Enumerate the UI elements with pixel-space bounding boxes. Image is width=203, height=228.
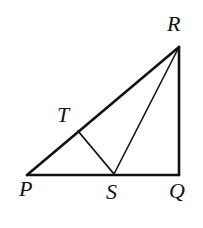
vertex-label-p: P (19, 178, 32, 200)
interior-segments (78, 47, 179, 174)
geometry-figure: P Q R S T (0, 0, 203, 228)
vertex-label-s: S (106, 181, 117, 203)
segment-TS (78, 131, 114, 174)
triangle-outline (27, 47, 179, 175)
vertex-label-t: T (57, 104, 69, 126)
vertex-label-q: Q (169, 180, 185, 202)
vertex-label-r: R (167, 13, 180, 35)
segment-PR (27, 47, 179, 175)
segment-SR (114, 47, 179, 174)
